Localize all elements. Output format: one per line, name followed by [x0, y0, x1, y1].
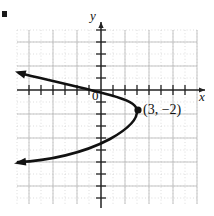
curve-arrowhead-upper	[15, 71, 27, 79]
y-axis-label: y	[90, 9, 96, 22]
figure-screen: y x 0 (3, −2)	[0, 0, 214, 216]
vertex-point-label: (3, −2)	[143, 103, 181, 117]
x-axis-label: x	[199, 90, 205, 103]
coordinate-graph	[0, 0, 214, 216]
origin-label: 0	[92, 89, 99, 102]
parabola-curve	[14, 71, 137, 166]
vertex-point-marker	[134, 106, 141, 113]
grid-minor	[17, 30, 197, 204]
y-axis-arrowhead	[98, 22, 103, 28]
grid-major	[17, 30, 197, 204]
curve-arrowhead-lower	[14, 158, 26, 166]
